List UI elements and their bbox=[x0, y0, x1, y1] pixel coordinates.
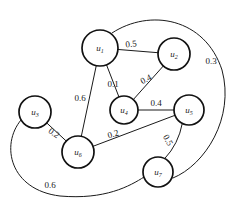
node-u2[interactable]: u2 bbox=[158, 38, 190, 70]
node-subscript-u1: 1 bbox=[101, 48, 104, 54]
edge-weight-u3-u6: 0.2 bbox=[47, 126, 62, 141]
node-u5[interactable]: u5 bbox=[174, 95, 204, 125]
edge-weight-u2-u4: 0.4 bbox=[139, 72, 154, 86]
graph-figure: u1u2u3u4u5u6u7 0.50.40.10.60.40.20.20.50… bbox=[0, 0, 234, 204]
edge-weight-u1-u7: 0.3 bbox=[205, 56, 217, 66]
node-subscript-u2: 2 bbox=[175, 54, 178, 60]
edge-weight-u1-u6: 0.6 bbox=[74, 93, 86, 103]
edge-weight-u3-u7: 0.6 bbox=[44, 180, 56, 190]
edge-u1-u2 bbox=[118, 49, 158, 52]
node-u7[interactable]: u7 bbox=[143, 157, 173, 187]
node-subscript-u6: 6 bbox=[79, 152, 82, 158]
node-u6[interactable]: u6 bbox=[62, 136, 94, 168]
node-subscript-u4: 4 bbox=[125, 110, 128, 116]
node-u1[interactable]: u1 bbox=[82, 30, 118, 66]
node-u4[interactable]: u4 bbox=[110, 96, 138, 124]
edge-weight-u1-u2: 0.5 bbox=[125, 38, 138, 49]
nodes-layer: u1u2u3u4u5u6u7 bbox=[19, 30, 204, 187]
edge-weight-u6-u5: 0.2 bbox=[106, 128, 120, 141]
node-subscript-u5: 5 bbox=[190, 110, 193, 116]
node-u3[interactable]: u3 bbox=[19, 96, 51, 128]
edge-weight-u5-u7: 0.5 bbox=[161, 133, 175, 148]
graph-canvas: u1u2u3u4u5u6u7 0.50.40.10.60.40.20.20.50… bbox=[0, 0, 234, 204]
edge-weight-u1-u4: 0.1 bbox=[107, 79, 118, 89]
edge-weight-u4-u5: 0.4 bbox=[150, 98, 162, 108]
node-subscript-u3: 3 bbox=[35, 112, 39, 118]
